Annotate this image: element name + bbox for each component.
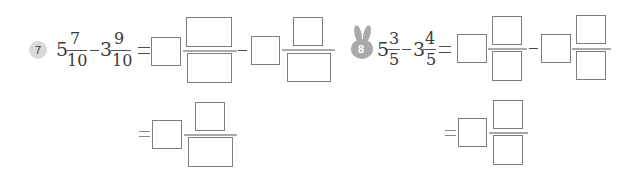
- result-box-whole[interactable]: [152, 120, 182, 149]
- equals-sign-top: [138, 47, 150, 48]
- fraction-bar: [184, 134, 237, 136]
- answer-box-numerator[interactable]: [492, 16, 522, 45]
- fraction-bar: [282, 49, 335, 51]
- answer-box-whole[interactable]: [251, 36, 280, 65]
- answer-box-denominator[interactable]: [492, 51, 522, 81]
- denominator: 10: [67, 53, 87, 69]
- minus-sign: [402, 49, 411, 50]
- problem-number-badge: 7: [29, 41, 47, 59]
- minus-sign: [529, 48, 538, 49]
- equals-sign-top: [445, 130, 456, 131]
- answer-box-denominator[interactable]: [576, 51, 606, 80]
- denominator: 5: [389, 52, 399, 68]
- problem-number: 8: [358, 43, 364, 55]
- denominator: 5: [426, 52, 436, 68]
- result-box-numerator[interactable]: [493, 100, 523, 129]
- result-box-whole[interactable]: [458, 118, 487, 147]
- result-box-denominator[interactable]: [493, 135, 523, 165]
- result-box-numerator[interactable]: [195, 102, 225, 131]
- answer-box-whole[interactable]: [541, 34, 571, 63]
- fraction-bar: [572, 48, 611, 50]
- problem-number: 7: [35, 44, 41, 56]
- fraction-bar: [489, 132, 528, 134]
- numerator: 9: [114, 31, 124, 47]
- answer-box-whole[interactable]: [457, 34, 487, 63]
- answer-box-denominator[interactable]: [287, 53, 331, 82]
- equals-sign-bottom: [138, 53, 150, 54]
- fraction-bar: [183, 50, 237, 52]
- numerator: 7: [70, 31, 80, 47]
- equals-sign-bottom: [139, 136, 150, 137]
- equals-sign-top: [439, 46, 451, 47]
- numerator: 3: [389, 31, 399, 47]
- rabbit-badge: 8: [349, 24, 377, 60]
- fraction-bar: [488, 48, 527, 50]
- minus-sign: [90, 50, 99, 51]
- answer-box-numerator[interactable]: [293, 17, 323, 46]
- equals-sign-top: [139, 131, 150, 132]
- denominator: 10: [112, 53, 132, 69]
- answer-box-numerator[interactable]: [576, 15, 606, 44]
- answer-box-denominator[interactable]: [187, 53, 232, 83]
- numerator: 4: [425, 31, 435, 47]
- answer-box-numerator[interactable]: [186, 17, 232, 47]
- result-box-denominator[interactable]: [188, 137, 233, 167]
- answer-box-whole[interactable]: [151, 37, 181, 66]
- minus-sign: [238, 50, 247, 51]
- equals-sign-bottom: [439, 52, 451, 53]
- equals-sign-bottom: [445, 135, 456, 136]
